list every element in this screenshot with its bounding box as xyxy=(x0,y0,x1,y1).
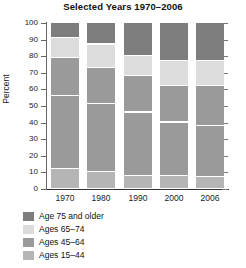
bar-segment[interactable] xyxy=(51,38,79,57)
bar-segment[interactable] xyxy=(87,68,115,103)
bar-segment[interactable] xyxy=(160,123,188,175)
x-axis-line xyxy=(46,189,229,190)
legend-item[interactable]: Ages 15–44 xyxy=(23,249,104,262)
bar-segment[interactable] xyxy=(87,45,115,67)
bar-stack[interactable] xyxy=(124,23,152,189)
bar-segment[interactable] xyxy=(124,176,152,188)
legend-label: Age 75 and older xyxy=(39,210,104,223)
bar-segment[interactable] xyxy=(51,96,79,168)
bar-segment[interactable] xyxy=(124,113,152,175)
legend-swatch xyxy=(23,225,34,234)
y-tick-label: 0 xyxy=(0,184,38,193)
y-tick-label: 40 xyxy=(0,118,38,127)
legend-label: Ages 15–44 xyxy=(39,249,84,262)
legend-label: Ages 45–64 xyxy=(39,236,84,249)
bar-stack[interactable] xyxy=(87,23,115,189)
bar-segment[interactable] xyxy=(87,23,115,43)
legend-swatch xyxy=(23,251,34,260)
plot-area xyxy=(47,23,228,189)
bar-segment[interactable] xyxy=(196,126,224,176)
y-tick-label: 60 xyxy=(0,84,38,93)
bar-segment[interactable] xyxy=(196,61,224,85)
legend-label: Ages 65–74 xyxy=(39,223,84,236)
y-tick-label: 90 xyxy=(0,35,38,44)
bar-segment[interactable] xyxy=(124,56,152,75)
bar-segment[interactable] xyxy=(196,23,224,60)
bar-segment[interactable] xyxy=(51,58,79,95)
chart-title: Selected Years 1970–2006 xyxy=(0,1,246,12)
bar-segment[interactable] xyxy=(51,23,79,37)
bar-segment[interactable] xyxy=(160,86,188,121)
bar-stack[interactable] xyxy=(196,23,224,189)
x-tick-label: 2006 xyxy=(187,193,233,203)
y-tick-label: 100 xyxy=(0,18,38,27)
y-tick xyxy=(41,189,47,190)
bar-segment[interactable] xyxy=(124,76,152,111)
chart-legend: Age 75 and olderAges 65–74Ages 45–64Ages… xyxy=(23,210,104,262)
bar-segment[interactable] xyxy=(160,23,188,60)
bar-segment[interactable] xyxy=(87,172,115,187)
bar-segment[interactable] xyxy=(160,61,188,85)
bar-stack[interactable] xyxy=(160,23,188,189)
bar-segment[interactable] xyxy=(196,86,224,125)
bar-segment[interactable] xyxy=(51,169,79,188)
bar-segment[interactable] xyxy=(160,176,188,188)
legend-item[interactable]: Age 75 and older xyxy=(23,210,104,223)
y-tick-label: 50 xyxy=(0,101,38,110)
y-tick-label: 70 xyxy=(0,68,38,77)
bar-stack[interactable] xyxy=(51,23,79,189)
legend-item[interactable]: Ages 65–74 xyxy=(23,223,104,236)
y-tick-label: 20 xyxy=(0,151,38,160)
bar-segment[interactable] xyxy=(196,177,224,187)
legend-swatch xyxy=(23,238,34,247)
y-tick-label: 80 xyxy=(0,51,38,60)
legend-item[interactable]: Ages 45–64 xyxy=(23,236,104,249)
right-tick xyxy=(222,189,228,190)
bar-segment[interactable] xyxy=(124,23,152,55)
y-tick-label: 10 xyxy=(0,167,38,176)
chart-container: Selected Years 1970–2006 Percent 1009080… xyxy=(0,0,246,268)
y-tick-label: 30 xyxy=(0,134,38,143)
legend-swatch xyxy=(23,212,34,221)
bar-segment[interactable] xyxy=(87,104,115,171)
